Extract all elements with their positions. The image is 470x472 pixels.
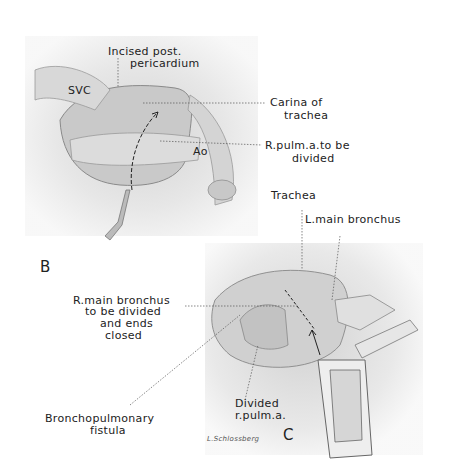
label-divided-c: Divided <box>235 398 279 409</box>
label-l-main-bronchus: L.main bronchus <box>305 214 401 225</box>
label-divided: divided <box>292 153 334 164</box>
label-pericardium: pericardium <box>130 58 199 69</box>
label-to-be-divided: to be divided <box>85 306 161 317</box>
artist-signature: L.Schlossberg <box>207 434 259 445</box>
label-fistula: fistula <box>90 425 126 436</box>
label-rpulm-divided: R.pulm.a.to be <box>265 140 350 151</box>
label-bronchopulmonary: Bronchopulmonary <box>45 413 154 424</box>
label-incised-post: Incised post. <box>108 46 181 57</box>
label-ao: Ao <box>193 146 208 157</box>
label-closed: closed <box>105 330 142 341</box>
label-and-ends: and ends <box>100 318 153 329</box>
label-svc: SVC <box>68 85 91 96</box>
label-r-pulm-a: r.pulm.a. <box>235 410 286 421</box>
panel-letter-c: C <box>283 428 294 443</box>
label-trachea-c: Trachea <box>271 190 316 201</box>
label-trachea-b: trachea <box>284 110 328 121</box>
panel-letter-b: B <box>40 260 51 275</box>
label-carina: Carina of <box>270 97 323 108</box>
